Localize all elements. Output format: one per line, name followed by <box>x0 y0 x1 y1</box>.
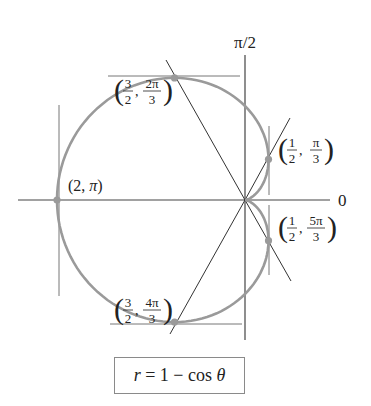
label-2-pi: (2, π) <box>68 177 103 195</box>
svg-text:2: 2 <box>289 229 296 244</box>
svg-text:): ) <box>327 210 337 244</box>
svg-text:,: , <box>135 303 139 318</box>
radial-line-120 <box>166 60 245 200</box>
point-label: (32,2π3) <box>114 73 173 107</box>
svg-text:π: π <box>313 135 320 150</box>
point-label: (12,5π3) <box>278 210 337 244</box>
svg-text:(: ( <box>278 210 288 244</box>
svg-text:): ) <box>163 73 173 107</box>
svg-text:3: 3 <box>125 76 132 91</box>
point-label: (32,4π3) <box>114 292 173 326</box>
polar-axis-label: 0 <box>338 191 347 210</box>
svg-text:3: 3 <box>313 229 320 244</box>
svg-text:(2, π): (2, π) <box>68 177 103 195</box>
equation-box: r = 1 − cos θ <box>114 357 245 394</box>
svg-text:): ) <box>324 132 334 166</box>
svg-text:): ) <box>163 292 173 326</box>
equation-mid: = 1 − cos <box>141 365 217 386</box>
equation-lhs: r <box>134 365 141 386</box>
svg-text:3: 3 <box>149 92 156 107</box>
svg-text:(: ( <box>114 292 124 326</box>
svg-text:1: 1 <box>289 135 296 150</box>
svg-text:2π: 2π <box>145 76 159 91</box>
svg-text:,: , <box>135 84 139 99</box>
svg-text:1: 1 <box>289 213 296 228</box>
svg-text:(: ( <box>278 132 288 166</box>
equation-theta: θ <box>216 365 225 386</box>
svg-text:2: 2 <box>125 92 132 107</box>
radial-line-240 <box>170 200 245 334</box>
svg-text:,: , <box>299 143 303 158</box>
svg-text:,: , <box>299 221 303 236</box>
point-marker <box>265 156 272 163</box>
svg-text:4π: 4π <box>145 295 159 310</box>
vertical-axis-label: π/2 <box>234 33 256 52</box>
point-marker <box>53 196 60 203</box>
svg-text:3: 3 <box>149 311 156 326</box>
cardioid-plot: π/2 0 (2, π) (32,2π3)(12,π3)(12,5π3)(32,… <box>0 0 371 406</box>
point-label: (12,π3) <box>278 132 334 166</box>
svg-text:5π: 5π <box>309 213 323 228</box>
svg-text:3: 3 <box>125 295 132 310</box>
svg-text:2: 2 <box>125 311 132 326</box>
svg-text:2: 2 <box>289 151 296 166</box>
svg-text:(: ( <box>114 73 124 107</box>
point-marker <box>265 237 272 244</box>
svg-text:3: 3 <box>313 151 320 166</box>
